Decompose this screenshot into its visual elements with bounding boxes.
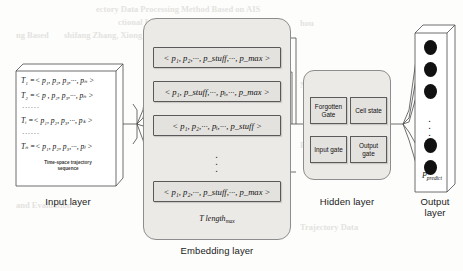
length-text: T length <box>199 214 225 223</box>
embedding-row: < p₁, p₂,···, p_stuff,···, p_max > <box>153 47 281 68</box>
ghost-text-9: Trajectory Data <box>300 222 358 232</box>
ghost-text-2: ng Based <box>16 30 49 40</box>
output-layer-label: Output layer <box>412 196 458 218</box>
output-node <box>424 84 437 99</box>
input-gate-line1: Input gate <box>314 146 342 153</box>
caption-line-1: Time-space trajectory <box>44 160 91 165</box>
input-layer-label: Input layer <box>16 196 120 207</box>
ghost-text-4: hou <box>300 18 314 28</box>
forgotten-gate-line2: Gate <box>322 111 336 118</box>
embedding-layer-label: Embedding layer <box>143 245 291 256</box>
figure-canvas: ectory Data Processing Method Based on A… <box>0 0 463 271</box>
output-layer: ... Ppredict <box>415 25 455 192</box>
input-gate-box: Input gate <box>310 136 347 163</box>
output-gate-box: Output gate <box>350 136 387 163</box>
input-sequence-list: T₁ =< p₁, p₂, p₃,···, pₙ >T₂ =< p , p₂, … <box>19 74 115 154</box>
embedding-layer: < p₁, p₂,···, p_stuff,···, p_max >< p₁, … <box>143 18 291 240</box>
output-node <box>424 138 437 153</box>
embedding-row: < p₁, p₂,···, p_stuff,···, p_max > <box>153 181 281 202</box>
forgotten-gate-box: Forgotten Gate <box>310 97 347 124</box>
prediction-subscript: predict <box>427 175 442 181</box>
hidden-layer-label: Hidden layer <box>303 196 391 207</box>
input-ellipsis-4: ······ <box>19 129 115 140</box>
embedding-vertical-ellipsis: ... <box>215 151 218 172</box>
output-node <box>424 62 437 77</box>
hidden-layer: Forgotten Gate Cell state Input gate Out… <box>303 70 391 180</box>
cell-state-line1: Cell state <box>355 107 382 114</box>
input-sequence-row: Tᵢ =< p₁, p₂, p₃,···, pₖ > <box>19 114 115 129</box>
ghost-text-0: ectory Data Processing Method Based on A… <box>96 4 260 14</box>
input-layer-caption: Time-space trajectory sequence <box>24 160 112 171</box>
input-sequence-row: Tₙ =< p₁, p₂, p₃,···, pₗ > <box>19 140 115 155</box>
output-label-line1: Output <box>420 196 449 207</box>
embedding-row: < p₁, p_stuff,···, pᵢ,···, p_max > <box>153 81 281 102</box>
output-gate-line2: gate <box>362 150 374 157</box>
forgotten-gate-line1: Forgotten <box>315 103 342 110</box>
input-ellipsis-2: ······ <box>19 103 115 114</box>
cell-state-box: Cell state <box>350 97 387 124</box>
output-node <box>424 40 437 55</box>
input-sequence-row: T₁ =< p₁, p₂, p₃,···, pₙ > <box>19 74 115 89</box>
output-gate-line1: Output <box>359 142 378 149</box>
input-sequence-row: T₂ =< p , p₂, p₃,···, pₙ > <box>19 89 115 104</box>
input-layer: T₁ =< p₁, p₂, p₃,···, pₙ >T₂ =< p , p₂, … <box>16 64 120 186</box>
caption-line-2: sequence <box>57 166 78 171</box>
embedding-length-label: T lengthmax <box>152 214 282 224</box>
output-label-line2: layer <box>424 207 445 218</box>
length-subscript: max <box>226 218 235 224</box>
prediction-label: Ppredict <box>417 171 447 181</box>
output-vertical-ellipsis: ... <box>428 115 431 136</box>
embedding-row: < p₁, p₂,···, pᵢ,···, p_stuff > <box>153 115 281 136</box>
